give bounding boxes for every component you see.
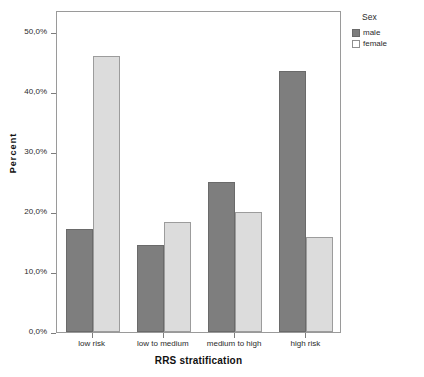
y-axis-tick-label: 10,0% <box>24 267 47 276</box>
y-axis-tick-label: 50,0% <box>24 27 47 36</box>
y-axis-title: Percent <box>8 118 18 188</box>
legend-swatch-icon <box>352 29 360 37</box>
plot-area <box>56 11 341 333</box>
x-axis-title: RRS stratification <box>56 355 341 366</box>
x-axis-tick-mark <box>92 333 93 338</box>
bar <box>137 245 164 332</box>
bar <box>306 237 333 332</box>
bar <box>279 71 306 332</box>
x-axis-category-label: high risk <box>270 339 341 349</box>
bar <box>164 222 191 332</box>
y-axis-tick-label: 30,0% <box>24 147 47 156</box>
y-axis-tick-label: 20,0% <box>24 207 47 216</box>
legend: Sex malefemale <box>352 12 422 50</box>
x-axis-tick-mark <box>163 333 164 338</box>
legend-entries: malefemale <box>352 28 422 48</box>
x-axis-tick-mark <box>234 333 235 338</box>
legend-item-male[interactable]: male <box>352 28 422 37</box>
y-axis-tick-label: 0,0% <box>29 327 47 336</box>
bar <box>235 212 262 332</box>
x-axis-tick-mark <box>305 333 306 338</box>
legend-item-label: male <box>363 28 380 37</box>
x-axis-category-label: medium to high <box>199 339 270 349</box>
y-axis-tick-mark <box>51 333 56 334</box>
bar <box>208 182 235 332</box>
bars-container <box>57 12 340 332</box>
y-axis-tick-label: 40,0% <box>24 87 47 96</box>
bar <box>93 56 120 332</box>
legend-swatch-icon <box>352 40 360 48</box>
x-axis-category-label: low to medium <box>127 339 198 349</box>
x-axis-category-label: low risk <box>56 339 127 349</box>
legend-item-female[interactable]: female <box>352 39 422 48</box>
legend-item-label: female <box>363 39 387 48</box>
bar-chart: Percent 0,0%10,0%20,0%30,0%40,0%50,0% RR… <box>0 0 424 377</box>
legend-title: Sex <box>352 12 422 23</box>
bar <box>66 229 93 332</box>
